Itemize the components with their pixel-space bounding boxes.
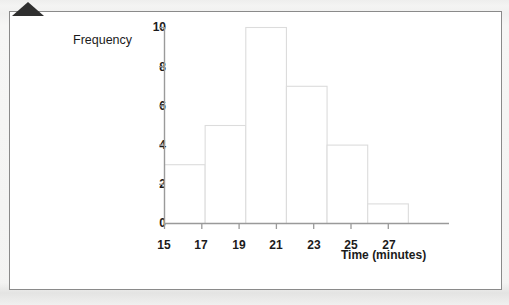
histogram-bar: [165, 165, 206, 224]
y-tick-marks: [159, 28, 165, 185]
histogram-bar: [286, 86, 327, 223]
histogram-chart: Frequency Time (minutes) 10 8 6 4 2 0 15…: [10, 12, 501, 289]
histogram-bar: [205, 126, 246, 224]
x-tick-marks: [165, 224, 389, 230]
triangle-marker-icon: [12, 2, 44, 16]
histogram-bar: [327, 145, 368, 223]
histogram-bar: [368, 204, 409, 224]
figure-frame: Frequency Time (minutes) 10 8 6 4 2 0 15…: [9, 11, 502, 290]
bars-group: [165, 28, 409, 224]
histogram-bar: [246, 28, 287, 224]
plot-svg: [10, 12, 503, 291]
